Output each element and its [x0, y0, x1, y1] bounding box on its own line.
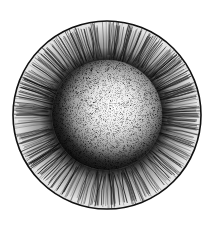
iris-illustration	[0, 0, 212, 235]
iris-artwork	[0, 0, 212, 235]
